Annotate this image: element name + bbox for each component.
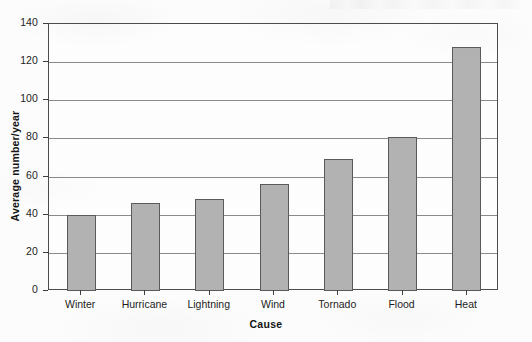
y-axis-tick-mark [43, 176, 48, 177]
plot-area [48, 23, 498, 290]
y-axis-tick-label: 80 [0, 131, 38, 142]
y-axis-tick-mark [43, 214, 48, 215]
y-axis-tick-mark [43, 252, 48, 253]
y-axis-tick-mark [43, 137, 48, 138]
gridline [49, 138, 497, 139]
x-axis-tick-mark [144, 290, 145, 295]
bar [131, 203, 160, 291]
y-axis-tick-label: 20 [0, 246, 38, 257]
y-axis-tick-label: 0 [0, 284, 38, 295]
x-axis-tick-mark [337, 290, 338, 295]
y-axis-tick-label: 40 [0, 208, 38, 219]
x-axis-tick-mark [466, 290, 467, 295]
gridline [49, 177, 497, 178]
y-axis-tick-label: 140 [0, 17, 38, 28]
x-axis-tick-mark [80, 290, 81, 295]
y-axis-tick-mark [43, 290, 48, 291]
scan-bleed-through [330, 0, 520, 9]
bar [452, 47, 481, 291]
gridline [49, 100, 497, 101]
bar [388, 137, 417, 291]
x-axis-title: Cause [0, 318, 532, 330]
y-axis-tick-mark [43, 61, 48, 62]
y-axis-tick-mark [43, 23, 48, 24]
bar [67, 215, 96, 291]
bar [324, 159, 353, 291]
x-axis-tick-mark [209, 290, 210, 295]
y-axis-tick-label: 100 [0, 93, 38, 104]
y-axis-title-label: Average number/year [9, 111, 21, 222]
x-axis-tick-mark [402, 290, 403, 295]
chart-page: Average number/year 020406080100120140 W… [0, 0, 532, 342]
gridline [49, 62, 497, 63]
x-axis-title-label: Cause [249, 318, 282, 330]
y-axis-tick-label: 60 [0, 170, 38, 181]
x-axis-tick-mark [273, 290, 274, 295]
y-axis-tick-mark [43, 99, 48, 100]
x-axis-tick-label: Heat [426, 298, 506, 310]
y-axis-tick-label: 120 [0, 55, 38, 66]
bar [195, 199, 224, 291]
bar [260, 184, 289, 291]
